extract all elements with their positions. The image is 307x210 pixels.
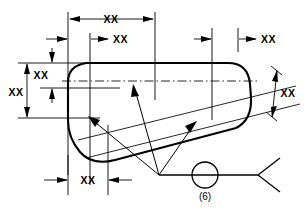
part-outline bbox=[68, 63, 251, 162]
dimension-label-bottom: XX bbox=[80, 174, 95, 186]
extension-tick-angled-bottom bbox=[266, 112, 277, 121]
arrowhead-left-lower-down bbox=[24, 107, 30, 118]
arrowhead-right bbox=[143, 16, 154, 22]
dimension-label-left-upper: XX bbox=[33, 69, 48, 81]
dimension-bottom: XX bbox=[44, 174, 132, 186]
arrowhead-angled-up bbox=[272, 70, 278, 82]
dimension-label-left-lower: XX bbox=[8, 86, 23, 98]
arrowhead-bottom-left bbox=[57, 177, 68, 183]
weld-tail-upper-icon[interactable] bbox=[258, 158, 280, 175]
dimension-left-upper: XX bbox=[33, 48, 55, 103]
leader-arrowhead-right bbox=[185, 121, 197, 133]
part-body-profile bbox=[68, 63, 251, 162]
arrowhead-top-inner-right bbox=[98, 36, 109, 42]
arrowhead-left bbox=[69, 16, 80, 22]
weld-quantity-label: (6) bbox=[199, 191, 211, 202]
arrowhead-left-upper-up bbox=[49, 88, 55, 99]
arrowhead-top-right-b bbox=[246, 36, 257, 42]
weld-symbol[interactable]: (6) bbox=[159, 158, 280, 202]
arrowhead-left-upper-down bbox=[49, 52, 55, 63]
arrowhead-angled-down bbox=[271, 106, 277, 118]
arrowhead-left-lower-up bbox=[24, 63, 30, 74]
leader-arrowhead-center bbox=[131, 84, 139, 97]
dimension-label-top-right: XX bbox=[261, 33, 276, 45]
dimension-right-angled: XX bbox=[266, 66, 296, 121]
dimension-label-top-inner: XX bbox=[113, 33, 128, 45]
engineering-drawing: XX XX XX XX bbox=[0, 0, 307, 210]
dimension-label-top-overall: XX bbox=[103, 13, 118, 25]
inclined-construction-lines bbox=[78, 86, 300, 158]
weld-tail-lower-icon[interactable] bbox=[258, 175, 280, 192]
dimension-label-right-angled: XX bbox=[280, 87, 295, 99]
technical-drawing-canvas: XX XX XX XX bbox=[0, 0, 307, 210]
arrowhead-top-inner-left bbox=[57, 36, 68, 42]
inclined-line-lower bbox=[86, 104, 300, 158]
arrowhead-bottom-right bbox=[108, 177, 119, 183]
dimension-top-inner: XX bbox=[46, 33, 128, 45]
dimension-top-right: XX bbox=[194, 33, 276, 45]
dimension-top-overall: XX bbox=[69, 13, 154, 25]
arrowhead-top-right-a bbox=[201, 36, 212, 42]
leader-line-left bbox=[90, 118, 159, 175]
dimension-left-lower: XX bbox=[8, 63, 30, 118]
